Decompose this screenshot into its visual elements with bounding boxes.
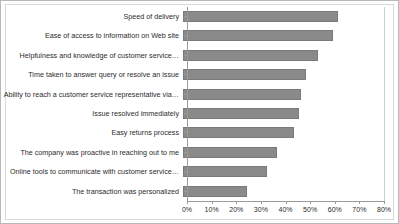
x-axis-tick [261,201,262,204]
category-label: Issue resolved immediately [1,109,183,118]
x-axis-tick [236,201,237,204]
category-label: The company was proactive in reaching ou… [1,148,183,157]
x-axis-tick [384,201,385,204]
chart-row: The transaction was personalized [1,182,399,201]
chart-row: Issue resolved immediately [1,104,399,123]
bar-cell [183,162,399,181]
category-tick [184,16,187,17]
category-label: Online tools to communicate with custome… [1,167,183,176]
x-axis-tick [187,201,188,204]
bar-cell [183,104,399,123]
bar-cell [183,26,399,45]
category-tick [184,94,187,95]
chart-container: Speed of deliveryEase of access to infor… [0,0,399,224]
category-label: Easy returns process [1,128,183,137]
x-axis-tick-label: 80% [377,206,391,214]
bar[interactable] [183,89,301,100]
category-tick [184,191,187,192]
chart-row: Ability to reach a customer service repr… [1,85,399,104]
bar-cell [183,85,399,104]
x-axis-tick [310,201,311,204]
plot-right-edge [384,7,385,201]
category-tick [184,35,187,36]
chart-row: Time taken to answer query or resolve an… [1,65,399,84]
bar[interactable] [183,30,333,41]
x-axis-tick-label: 0% [182,206,192,214]
bar-cell [183,143,399,162]
category-tick [184,152,187,153]
category-tick [184,113,187,114]
x-axis-tick [359,201,360,204]
bar[interactable] [183,11,338,22]
bar[interactable] [183,166,267,177]
category-label: Speed of delivery [1,12,183,21]
x-axis-tick [286,201,287,204]
category-label: Ease of access to information on Web sit… [1,31,183,40]
category-tick [184,132,187,133]
x-axis-tick-label: 30% [254,206,268,214]
bar-cell [183,46,399,65]
category-tick [184,171,187,172]
chart-row: Helpfulness and knowledge of customer se… [1,46,399,65]
bar[interactable] [183,186,247,197]
x-axis-tick-label: 20% [229,206,243,214]
chart-row: Online tools to communicate with custome… [1,162,399,181]
chart-row: Ease of access to information on Web sit… [1,26,399,45]
category-label: The transaction was personalized [1,187,183,196]
category-tick [184,55,187,56]
bar[interactable] [183,69,306,80]
x-axis-tick-label: 50% [303,206,317,214]
bar[interactable] [183,108,299,119]
bar[interactable] [183,127,294,138]
bar-cell [183,123,399,142]
bar[interactable] [183,147,277,158]
x-axis-tick-label: 10% [205,206,219,214]
category-label: Time taken to answer query or resolve an… [1,70,183,79]
bar-cell [183,182,399,201]
x-axis-tick-label: 60% [328,206,342,214]
chart-row: Speed of delivery [1,7,399,26]
x-axis-tick-label: 70% [352,206,366,214]
category-label: Helpfulness and knowledge of customer se… [1,51,183,60]
plot-area: Speed of deliveryEase of access to infor… [1,1,399,224]
category-tick [184,74,187,75]
x-axis-tick [335,201,336,204]
y-axis-line [187,7,188,201]
x-axis-tick [212,201,213,204]
chart-row: The company was proactive in reaching ou… [1,143,399,162]
bar-cell [183,7,399,26]
x-axis-tick-label: 40% [278,206,292,214]
bar-cell [183,65,399,84]
category-label: Ability to reach a customer service repr… [1,90,183,99]
bar[interactable] [183,50,318,61]
chart-row: Easy returns process [1,123,399,142]
